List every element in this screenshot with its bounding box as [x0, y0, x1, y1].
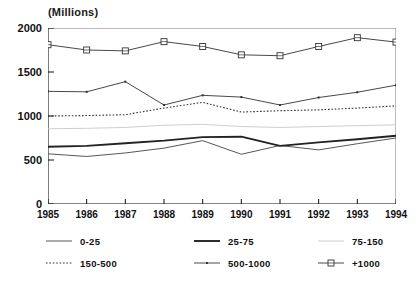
chart-legend: 0-2525-7575-150150-500500-1000+1000: [46, 234, 406, 278]
legend-item-150-500[interactable]: 150-500: [46, 256, 117, 270]
legend-swatch-icon: [194, 235, 220, 247]
legend-swatch-icon: [318, 257, 344, 269]
series-line-500-1000: [48, 82, 396, 105]
legend-item-label: 25-75: [228, 236, 254, 247]
legend-item-label: 500-1000: [228, 258, 271, 269]
y-axis-tick-label: 1000: [18, 110, 42, 122]
series-point-marker: [163, 104, 165, 106]
series-point-marker: [48, 90, 49, 92]
y-axis-tick-label: 1500: [18, 66, 42, 78]
x-axis-tick-label: 1992: [308, 209, 330, 220]
series-point-marker: [86, 91, 88, 93]
series-point-marker: [240, 96, 242, 98]
legend-swatch-icon: [194, 257, 220, 269]
series-line--1000: [48, 38, 396, 56]
legend-item-75-150[interactable]: 75-150: [318, 234, 383, 248]
series-line-150-500: [48, 102, 396, 116]
x-axis-tick-label: 1989: [192, 209, 214, 220]
series-point-marker: [318, 97, 320, 99]
chart-title: (Millions): [48, 6, 98, 18]
x-axis-tick-label: 1988: [153, 209, 175, 220]
legend-item-25-75[interactable]: 25-75: [194, 234, 254, 248]
legend-item-label: 75-150: [352, 236, 383, 247]
x-axis-tick-label: 1994: [385, 209, 407, 220]
y-axis-tick-label: 2000: [18, 22, 42, 34]
legend-item-label: 0-25: [80, 236, 100, 247]
x-axis-tick-label: 1991: [269, 209, 291, 220]
x-axis-tick-label: 1993: [346, 209, 368, 220]
series-point-marker: [395, 84, 396, 86]
y-axis-tick-label: 500: [24, 154, 42, 166]
series-point-marker: [124, 81, 126, 83]
legend-item-label: +1000: [352, 258, 380, 269]
legend-item-500-1000[interactable]: 500-1000: [194, 256, 271, 270]
chart-plot-svg: [48, 28, 396, 204]
legend-swatch-icon: [46, 257, 72, 269]
series-line-25-75: [48, 136, 396, 147]
x-axis-tick-label: 1987: [114, 209, 136, 220]
x-axis-tick-label: 1985: [37, 209, 59, 220]
series-point-marker: [202, 94, 204, 96]
legend-dot: [206, 262, 208, 264]
series-line-75-150: [48, 124, 396, 128]
plot-area: 0500100015002000198519861987198819891990…: [48, 28, 396, 204]
series-point-marker: [279, 104, 281, 106]
legend-swatch-icon: [318, 235, 344, 247]
legend-item--1000[interactable]: +1000: [318, 256, 380, 270]
series-point-marker: [356, 91, 358, 93]
legend-item-0-25[interactable]: 0-25: [46, 234, 100, 248]
chart-figure: (Millions) 05001000150020001985198619871…: [0, 0, 418, 285]
legend-item-label: 150-500: [80, 258, 117, 269]
x-axis-tick-label: 1986: [76, 209, 98, 220]
legend-swatch-icon: [46, 235, 72, 247]
x-axis-tick-label: 1990: [230, 209, 252, 220]
